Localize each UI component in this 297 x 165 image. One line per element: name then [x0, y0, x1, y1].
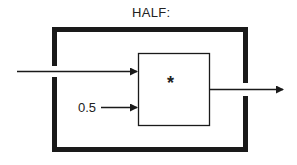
diagram-canvas — [0, 0, 297, 165]
constant-label: 0.5 — [78, 100, 96, 115]
block-title: HALF: — [132, 5, 170, 20]
operator-symbol: * — [167, 73, 174, 94]
